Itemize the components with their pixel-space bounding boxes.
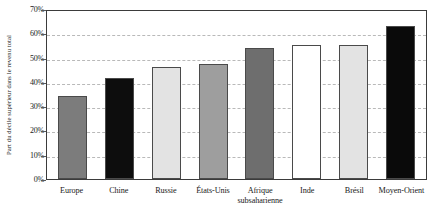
x-axis-tick-label: États-Unis: [189, 183, 236, 221]
bar: [199, 64, 228, 179]
x-axis-tick-label-line2: subsaharienne: [237, 196, 284, 206]
bar: [386, 26, 415, 179]
x-axis-tick-label: Russie: [142, 183, 189, 221]
y-axis-tick-mark: [41, 180, 46, 181]
bar-slot: [377, 11, 424, 179]
bar: [245, 48, 274, 179]
x-axis-tick-label: Europe: [48, 183, 95, 221]
x-axis-tick-label-line1: Europe: [48, 186, 95, 196]
x-axis-tick-label-line1: Chine: [95, 186, 142, 196]
bar-slot: [190, 11, 237, 179]
x-axis-tick-label-line1: Brésil: [331, 186, 378, 196]
x-axis-tick-label-line1: Moyen-Orient: [378, 186, 425, 196]
x-axis-tick-label-line1: Inde: [284, 186, 331, 196]
x-axis-tick-label: Chine: [95, 183, 142, 221]
bar-slot: [330, 11, 377, 179]
bar-slot: [143, 11, 190, 179]
x-axis-tick-label-line1: Afrique: [237, 186, 284, 196]
x-axis-tick-label: Afriquesubsaharienne: [237, 183, 284, 221]
bar-group: [47, 11, 426, 179]
x-axis-tick-label: Moyen-Orient: [378, 183, 425, 221]
bar: [292, 45, 321, 179]
bar-slot: [237, 11, 284, 179]
x-axis-tick-label: Inde: [284, 183, 331, 221]
bar-slot: [49, 11, 96, 179]
bar-chart-figure: Part du décile supérieur dans le revenu …: [0, 0, 436, 224]
x-axis-tick-label-group: EuropeChineRussieÉtats-UnisAfriquesubsah…: [46, 183, 427, 221]
x-axis-tick-label-line1: États-Unis: [189, 186, 236, 196]
bar: [152, 67, 181, 179]
x-axis-tick-label-line1: Russie: [142, 186, 189, 196]
bar: [339, 45, 368, 179]
bar: [105, 78, 134, 179]
bar: [58, 96, 87, 179]
bar-slot: [96, 11, 143, 179]
plot-area: [46, 10, 427, 180]
bar-slot: [283, 11, 330, 179]
x-axis-tick-label: Brésil: [331, 183, 378, 221]
